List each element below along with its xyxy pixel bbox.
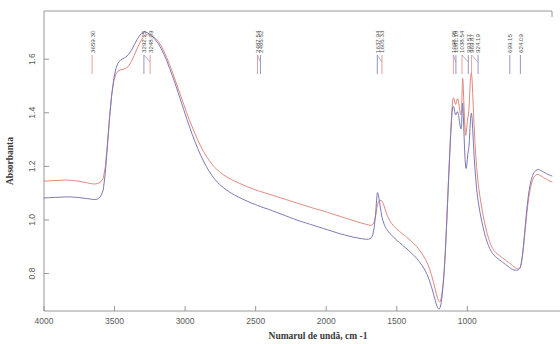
- peak-connector: [472, 55, 478, 62]
- peak-marker: 1605.33: [378, 30, 385, 74]
- peak-marker: 2465.52: [257, 30, 264, 74]
- x-tick-label: 2500: [246, 316, 265, 326]
- x-axis-title: Numarul de undă, cm -1: [269, 331, 368, 341]
- y-axis: 0.81.01.21.41.6Absorbanta: [5, 53, 49, 279]
- x-tick-label: 3500: [105, 316, 124, 326]
- y-axis-title: Absorbanta: [5, 137, 15, 185]
- peak-marker: 3248.09: [147, 30, 154, 74]
- peak-label: 2465.52: [257, 30, 264, 53]
- peak-label: 624.09: [517, 34, 524, 53]
- spectrum-plot-area: 0.81.01.21.41.6Absorbanta400035003000250…: [0, 0, 560, 344]
- peak-label: 699.15: [506, 34, 513, 53]
- spectrum-curve-blue: [44, 32, 552, 309]
- peak-connector: [462, 55, 468, 62]
- peak-marker: 699.15: [506, 34, 513, 74]
- y-tick-label: 1.6: [27, 53, 37, 65]
- peak-label: 3248.09: [147, 30, 154, 53]
- y-tick-label: 1.2: [27, 160, 37, 172]
- x-tick-label: 1500: [387, 316, 406, 326]
- peak-connector: [144, 55, 150, 62]
- x-tick-label: 1000: [458, 316, 477, 326]
- x-tick-label: 2000: [317, 316, 336, 326]
- x-tick-label: 3000: [176, 316, 195, 326]
- peak-label: 3659.30: [89, 30, 96, 53]
- plot-frame: [44, 11, 560, 311]
- peak-marker: 3659.30: [89, 30, 96, 74]
- peak-label: 924.19: [474, 34, 481, 53]
- ir-spectrum-chart: 0.81.01.21.41.6Absorbanta400035003000250…: [0, 0, 560, 344]
- y-tick-label: 1.4: [27, 107, 37, 119]
- peak-connector: [258, 55, 261, 62]
- spectrum-curve-red: [44, 35, 552, 302]
- peak-label: 1605.33: [378, 30, 385, 53]
- peak-marker: 624.09: [517, 34, 524, 74]
- peak-connector: [377, 55, 382, 62]
- peak-marker: 924.19: [474, 34, 481, 74]
- x-tick-label: 4000: [35, 316, 54, 326]
- y-tick-label: 0.8: [27, 267, 37, 279]
- y-tick-label: 1.0: [27, 214, 37, 226]
